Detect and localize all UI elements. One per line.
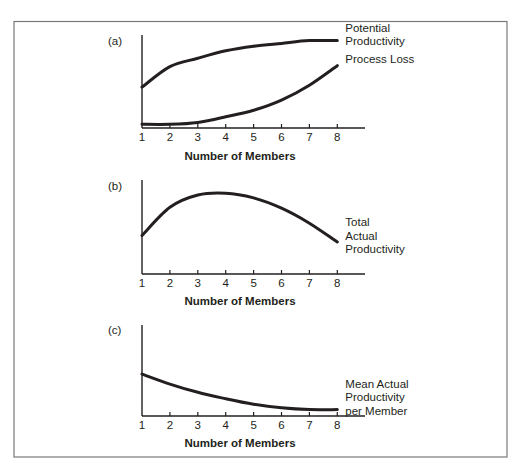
x-axis-title: Number of Members: [184, 437, 295, 449]
series-label: PotentialProductivity: [345, 22, 405, 48]
series-label: Process Loss: [345, 53, 414, 65]
x-tick-label: 7: [306, 277, 312, 289]
series-labels: Mean ActualProductivityper Member: [345, 378, 408, 417]
x-tick-label: 7: [306, 419, 312, 431]
x-tick-label: 3: [195, 277, 201, 289]
x-tick-label: 4: [222, 419, 229, 431]
panel-b: (b) 12345678 TotalActualProductivity Num…: [108, 180, 405, 307]
panel-a: (a) 12345678 PotentialProductivityProces…: [108, 22, 415, 162]
plot-lines: [142, 374, 337, 410]
panel-label: (c): [108, 324, 122, 336]
series-line: [142, 193, 337, 242]
plot-lines: [142, 193, 337, 242]
series-label: TotalActualProductivity: [345, 216, 405, 255]
x-tick-label: 3: [195, 131, 201, 143]
x-tick-label: 4: [222, 131, 229, 143]
x-tick-label: 2: [167, 277, 173, 289]
panel-label: (b): [108, 180, 122, 192]
x-tick-label: 6: [278, 131, 284, 143]
x-tick-label: 2: [167, 131, 173, 143]
series-line: [142, 374, 337, 410]
x-axis-title: Number of Members: [184, 150, 295, 162]
series-line: [142, 40, 337, 87]
chart-canvas: (a) 12345678 PotentialProductivityProces…: [0, 0, 518, 467]
axes: 12345678: [139, 35, 365, 143]
x-tick-label: 2: [167, 419, 173, 431]
x-axis-title: Number of Members: [184, 295, 295, 307]
x-tick-label: 6: [278, 277, 284, 289]
figure: (a) 12345678 PotentialProductivityProces…: [0, 0, 518, 467]
x-tick-label: 8: [334, 419, 340, 431]
x-tick-label: 4: [222, 277, 229, 289]
x-tick-label: 6: [278, 419, 284, 431]
figure-frame: [14, 22, 507, 458]
x-tick-label: 5: [250, 277, 256, 289]
x-tick-label: 3: [195, 419, 201, 431]
x-tick-label: 1: [139, 277, 145, 289]
series-line: [142, 66, 337, 125]
x-tick-label: 5: [250, 419, 256, 431]
series-labels: PotentialProductivityProcess Loss: [345, 22, 414, 65]
x-tick-label: 7: [306, 131, 312, 143]
x-tick-label: 5: [250, 131, 256, 143]
series-label: Mean ActualProductivityper Member: [345, 378, 408, 417]
x-tick-label: 8: [334, 131, 340, 143]
panel-label: (a): [108, 35, 122, 47]
x-tick-label: 1: [139, 131, 145, 143]
axes: 12345678: [139, 325, 365, 431]
plot-lines: [142, 40, 337, 124]
x-tick-label: 8: [334, 277, 340, 289]
series-labels: TotalActualProductivity: [345, 216, 405, 255]
x-tick-label: 1: [139, 419, 145, 431]
panel-c: (c) 12345678 Mean ActualProductivityper …: [108, 324, 409, 449]
